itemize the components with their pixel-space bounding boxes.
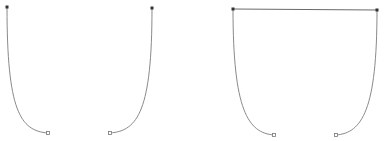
left-curve-path: [233, 9, 274, 135]
right-curve-path: [110, 8, 152, 133]
end-point-handle[interactable]: [335, 134, 338, 137]
end-point-handle[interactable]: [109, 132, 112, 135]
anchor-point-handle[interactable]: [376, 9, 379, 12]
left-curve-path: [7, 7, 48, 133]
bezier-diagram-canvas: [0, 0, 384, 141]
anchor-point-handle[interactable]: [6, 6, 9, 9]
end-point-handle[interactable]: [47, 132, 50, 135]
end-point-handle[interactable]: [273, 134, 276, 137]
right-curve-path: [336, 10, 377, 135]
top-connector-line: [233, 9, 377, 10]
right-figure: [232, 8, 379, 137]
left-figure: [6, 6, 154, 135]
anchor-point-handle[interactable]: [232, 8, 235, 11]
anchor-point-handle[interactable]: [151, 7, 154, 10]
figures-layer: [6, 6, 379, 137]
